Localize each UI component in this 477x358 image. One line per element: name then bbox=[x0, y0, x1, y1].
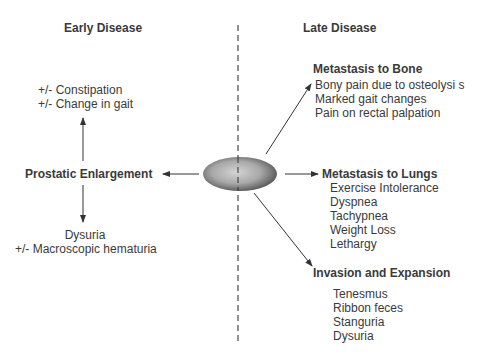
bone-item: Bony pain due to osteolysi s bbox=[315, 78, 464, 92]
early-up-item: +/- Change in gait bbox=[38, 97, 133, 111]
lungs-item: Tachypnea bbox=[330, 209, 388, 223]
lungs-item: Lethargy bbox=[330, 237, 377, 251]
lungs-item: Weight Loss bbox=[330, 223, 396, 237]
invasion-item: Stanguria bbox=[333, 315, 384, 329]
bone-item: Marked gait changes bbox=[315, 92, 426, 106]
arrow-to-invasion bbox=[254, 193, 312, 266]
invasion-title: Invasion and Expansion bbox=[313, 266, 450, 280]
arrow-to-bone bbox=[266, 84, 311, 154]
invasion-item: Tenesmus bbox=[333, 287, 388, 301]
prostate-ellipse bbox=[203, 157, 277, 191]
prostatic-enlargement-label: Prostatic Enlargement bbox=[25, 167, 152, 181]
early-disease-header: Early Disease bbox=[64, 21, 142, 35]
early-up-item: +/- Constipation bbox=[38, 83, 122, 97]
early-down-item: Dysuria bbox=[15, 228, 155, 242]
lungs-item: Exercise Intolerance bbox=[330, 181, 439, 195]
late-disease-header: Late Disease bbox=[303, 21, 376, 35]
bone-title: Metastasis to Bone bbox=[313, 62, 422, 76]
lungs-title: Metastasis to Lungs bbox=[322, 167, 437, 181]
invasion-item: Ribbon feces bbox=[333, 301, 403, 315]
early-down-item: +/- Macroscopic hematuria bbox=[15, 242, 155, 256]
lungs-item: Dyspnea bbox=[330, 195, 377, 209]
bone-item: Pain on rectal palpation bbox=[315, 106, 440, 120]
invasion-item: Dysuria bbox=[333, 329, 374, 343]
